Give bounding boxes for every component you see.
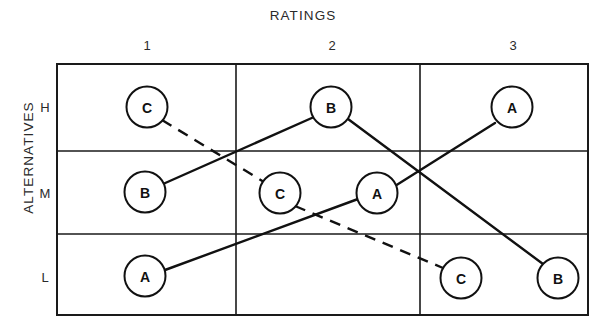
- node-a-m3[interactable]: A: [357, 173, 398, 214]
- node-label: C: [275, 186, 285, 202]
- node-b-h2[interactable]: B: [311, 87, 352, 128]
- node-b-m1[interactable]: B: [125, 172, 166, 213]
- node-label: A: [507, 100, 517, 116]
- diagram-svg: C B A B C A A C: [0, 0, 606, 331]
- node-a-l1[interactable]: A: [125, 256, 166, 297]
- node-c-h1[interactable]: C: [127, 87, 168, 128]
- node-label: C: [142, 100, 152, 116]
- node-label: C: [456, 271, 466, 287]
- node-a-h3[interactable]: A: [492, 87, 533, 128]
- node-c-l3[interactable]: C: [441, 258, 482, 299]
- node-label: A: [140, 269, 150, 285]
- node-label: B: [553, 271, 563, 287]
- diagram-canvas: RATINGS ALTERNATIVES 1 2 3 H M L: [0, 0, 606, 331]
- node-label: A: [372, 186, 382, 202]
- node-b-l3[interactable]: B: [538, 258, 579, 299]
- node-label: B: [140, 185, 150, 201]
- node-label: B: [326, 100, 336, 116]
- node-c-m2[interactable]: C: [260, 173, 301, 214]
